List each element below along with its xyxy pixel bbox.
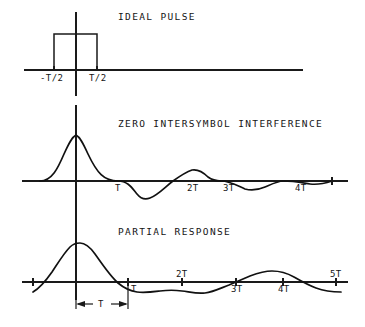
zero-isi-title: ZERO INTERSYMBOL INTERFERENCE — [118, 118, 323, 129]
ideal-pulse-label-neg-half-t: -T/2 — [40, 73, 63, 83]
zero-isi-label-4t: 4T — [295, 183, 307, 193]
zero-isi-waveform — [40, 135, 332, 199]
ideal-pulse-title: IDEAL PULSE — [118, 11, 196, 22]
partial-response-label-3t: 3T — [231, 284, 243, 294]
zero-isi-label-t: T — [115, 183, 121, 193]
dimension-arrowhead-right — [119, 301, 128, 307]
zero-isi-label-3t: 3T — [223, 183, 235, 193]
partial-response-label-4t: 4T — [278, 284, 290, 294]
panel-partial-response — [22, 207, 348, 309]
dimension-arrowhead-left — [76, 301, 85, 307]
waveform-figure: IDEAL PULSE -T/2 T/2 ZERO INTERSYMBOL IN… — [0, 0, 365, 327]
partial-response-label-2t: 2T — [176, 269, 188, 279]
panel-ideal-pulse — [24, 12, 303, 96]
symbol-period-dimension-label: T — [98, 299, 104, 309]
ideal-pulse-label-pos-half-t: T/2 — [89, 73, 106, 83]
partial-response-label-t: T — [131, 284, 137, 294]
partial-response-title: PARTIAL RESPONSE — [118, 226, 231, 237]
partial-response-label-5t: 5T — [330, 269, 342, 279]
zero-isi-label-2t: 2T — [187, 183, 199, 193]
